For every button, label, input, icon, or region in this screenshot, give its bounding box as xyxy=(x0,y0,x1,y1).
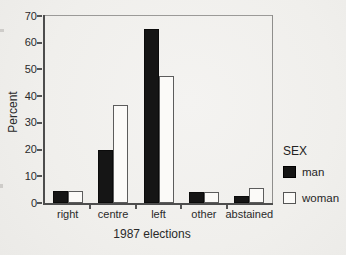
scan-speck xyxy=(0,29,4,32)
legend-title: SEX xyxy=(283,144,339,158)
bar-man-other xyxy=(189,192,204,203)
category-label-abstained: abstained xyxy=(217,208,281,220)
y-tick-label: 50 xyxy=(11,64,37,75)
scan-speck xyxy=(0,184,3,188)
bar-man-centre xyxy=(98,150,113,203)
y-tick xyxy=(37,15,42,17)
y-tick xyxy=(37,175,42,177)
y-tick xyxy=(37,42,42,44)
bar-man-abstained xyxy=(234,196,249,203)
bar-man-right xyxy=(53,191,68,203)
x-axis-line xyxy=(43,203,273,205)
man-swatch-icon xyxy=(283,166,296,178)
legend: SEX man woman xyxy=(283,144,339,218)
legend-item-man: man xyxy=(283,166,339,178)
woman-swatch-icon xyxy=(283,192,296,204)
y-tick xyxy=(37,202,42,204)
y-tick-label: 70 xyxy=(11,11,37,22)
plot-frame-right xyxy=(272,15,273,203)
bar-chart-figure: 010203040506070rightcentreleftotherabsta… xyxy=(0,0,346,255)
y-tick-label: 20 xyxy=(11,144,37,155)
y-tick-label: 0 xyxy=(11,198,37,209)
bar-woman-abstained xyxy=(249,188,264,203)
bar-woman-left xyxy=(159,76,174,203)
y-tick xyxy=(37,95,42,97)
bar-man-left xyxy=(144,29,159,203)
y-tick-label: 10 xyxy=(11,171,37,182)
bar-woman-right xyxy=(68,191,83,203)
legend-label-woman: woman xyxy=(302,192,339,204)
legend-item-woman: woman xyxy=(283,192,339,204)
y-tick xyxy=(37,149,42,151)
legend-label-man: man xyxy=(302,166,324,178)
plot-area: 010203040506070rightcentreleftotherabsta… xyxy=(45,16,272,203)
y-tick xyxy=(37,68,42,70)
y-tick xyxy=(37,122,42,124)
y-tick-label: 60 xyxy=(11,37,37,48)
bar-woman-centre xyxy=(113,105,128,203)
y-axis-line xyxy=(43,15,45,205)
bar-woman-other xyxy=(204,192,219,203)
y-axis-title: Percent xyxy=(6,91,20,132)
plot-frame-top xyxy=(45,15,273,16)
x-axis-title: 1987 elections xyxy=(113,227,190,241)
